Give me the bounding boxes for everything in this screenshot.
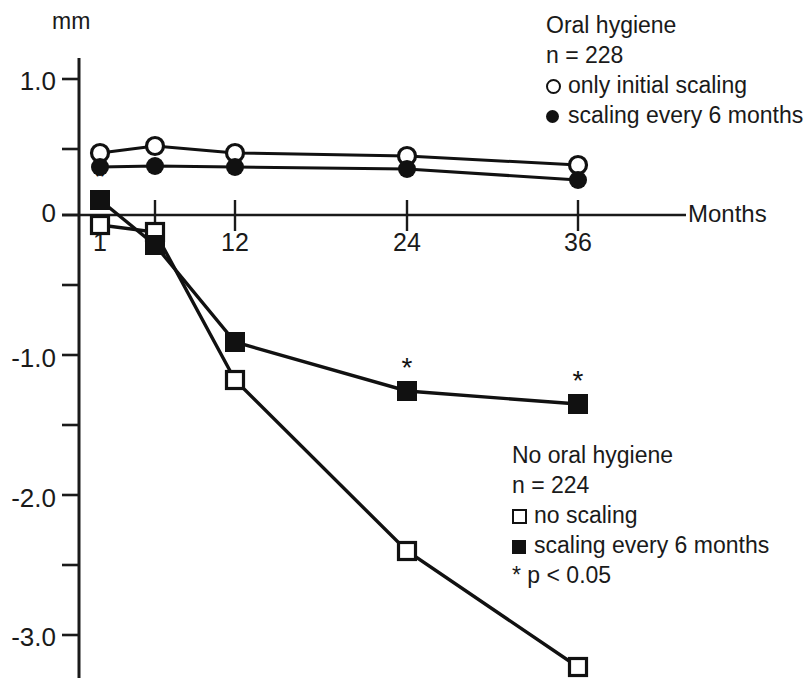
circle-filled-icon	[546, 100, 568, 130]
legend-item-no-scaling[interactable]: no scaling	[512, 500, 769, 530]
legend-top-n: n = 228	[546, 40, 803, 70]
chart-figure: mm 1.0 0 -1.0 -2.0 -3.0 1 12 24 36 Month…	[0, 0, 810, 696]
square-filled-icon	[512, 530, 534, 560]
square-open-icon	[512, 500, 534, 530]
significance-markers: * * *	[95, 161, 584, 396]
legend-bottom-title: No oral hygiene	[512, 440, 769, 470]
y-axis-ticks	[62, 79, 79, 635]
legend-bottom-n: n = 224	[512, 470, 769, 500]
legend-footnote-text: * p < 0.05	[512, 560, 611, 590]
legend-oral-hygiene: Oral hygiene n = 228 only initial scalin…	[546, 10, 803, 130]
legend-item-noh-scaling-6-months[interactable]: scaling every 6 months	[512, 530, 769, 560]
legend-no-oral-hygiene: No oral hygiene n = 224 no scaling scali…	[512, 440, 769, 590]
legend-item-oh-scaling-6-months[interactable]: scaling every 6 months	[546, 100, 803, 130]
significance-star-month-1: *	[95, 161, 106, 192]
legend-top-title: Oral hygiene	[546, 10, 803, 40]
legend-significance-note: * p < 0.05	[512, 560, 769, 590]
significance-star-month-36: *	[573, 365, 584, 396]
legend-item-label: scaling every 6 months	[534, 530, 769, 560]
significance-star-month-24: *	[402, 352, 413, 383]
legend-item-label: scaling every 6 months	[568, 100, 803, 130]
circle-open-icon	[546, 70, 568, 100]
legend-item-label: no scaling	[534, 500, 638, 530]
legend-item-only-initial-scaling[interactable]: only initial scaling	[546, 70, 803, 100]
legend-item-label: only initial scaling	[568, 70, 747, 100]
